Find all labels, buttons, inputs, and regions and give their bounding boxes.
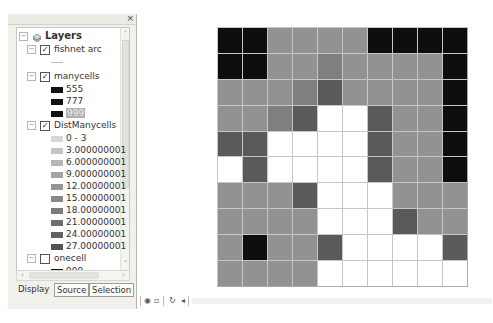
raster-cell [317, 27, 342, 53]
map-raster-grid[interactable] [217, 27, 468, 287]
legend-item[interactable]: 999 [51, 107, 85, 119]
legend-swatch-icon [51, 148, 63, 154]
raster-cell [367, 156, 392, 182]
layer-visibility-checkbox[interactable]: ✓ [40, 121, 50, 131]
raster-cell [292, 260, 317, 286]
legend-item[interactable]: 15.00000001 - 1 [51, 192, 130, 204]
raster-cell [442, 27, 467, 53]
legend-item[interactable]: 0 - 3 [51, 132, 86, 144]
collapse-icon[interactable]: − [27, 72, 36, 81]
layer-item[interactable]: −onecell [27, 252, 86, 264]
raster-cell [417, 208, 442, 234]
legend-label: 18.00000001 - 2 [66, 205, 130, 215]
table-of-contents-panel: × ˄ ˅ −Layers−✓fishnet arc−✓manycells555… [8, 14, 137, 309]
legend-item[interactable]: 21.00000001 - 2 [51, 216, 130, 228]
legend-item[interactable]: 3.000000001 - 6 [51, 144, 130, 156]
raster-cell [292, 234, 317, 260]
globe-icon[interactable]: ◉ [144, 296, 151, 306]
collapse-icon[interactable]: − [27, 45, 36, 54]
legend-swatch-icon [51, 99, 63, 105]
scroll-down-icon[interactable]: ˅ [121, 259, 130, 269]
toolbar-separator [163, 296, 164, 306]
raster-cell [317, 53, 342, 79]
raster-cell [442, 131, 467, 157]
raster-cell [267, 182, 292, 208]
legend-item[interactable]: 9.000000001 - 1 [51, 168, 130, 180]
layer-name: onecell [54, 253, 86, 263]
raster-cell [267, 53, 292, 79]
layer-tree-root[interactable]: −Layers [19, 30, 82, 42]
collapse-icon[interactable]: − [19, 32, 28, 41]
legend-item[interactable]: 555 [51, 83, 83, 95]
raster-cell [392, 79, 417, 105]
horizontal-scrollbar[interactable]: ‹ › [16, 270, 130, 281]
map-horizontal-scrollbar[interactable] [192, 298, 492, 304]
raster-cell [367, 105, 392, 131]
legend-label: 999 [66, 108, 85, 118]
legend-item[interactable]: 18.00000001 - 2 [51, 204, 130, 216]
raster-cell [342, 156, 367, 182]
legend-swatch-icon [51, 87, 63, 93]
layer-item[interactable]: −✓DistManycells [27, 119, 116, 131]
raster-cell [317, 79, 342, 105]
line-symbol-icon [51, 62, 63, 63]
legend-item[interactable]: 24.00000001 - 2 [51, 228, 130, 240]
panel-titlebar[interactable]: × [8, 14, 136, 25]
raster-cell [367, 53, 392, 79]
page-layout-icon[interactable]: ▫ [154, 296, 159, 306]
collapse-icon[interactable]: − [27, 254, 36, 263]
raster-cell [367, 208, 392, 234]
scroll-right-icon[interactable]: › [119, 271, 128, 280]
raster-cell [217, 156, 242, 182]
layer-visibility-checkbox[interactable]: ✓ [40, 72, 50, 82]
raster-cell [367, 27, 392, 53]
raster-cell [392, 156, 417, 182]
raster-cell [392, 53, 417, 79]
raster-cell [292, 53, 317, 79]
legend-swatch-icon [51, 160, 63, 166]
raster-cell [317, 208, 342, 234]
legend-label: 9.000000001 - 1 [66, 169, 130, 179]
close-icon[interactable]: × [126, 13, 134, 23]
raster-cell [417, 131, 442, 157]
legend-item[interactable]: 12.00000001 - 1 [51, 180, 130, 192]
layer-item[interactable]: −✓manycells [27, 70, 100, 82]
scroll-up-icon[interactable]: ˄ [121, 29, 130, 39]
scroll-left-icon[interactable]: ‹ [18, 271, 27, 280]
scroll-thumb-horizontal[interactable] [29, 272, 99, 279]
raster-cell [242, 260, 267, 286]
raster-cell [242, 53, 267, 79]
raster-cell [392, 105, 417, 131]
layer-name: manycells [54, 71, 100, 81]
raster-cell [442, 79, 467, 105]
raster-cell [217, 208, 242, 234]
layer-visibility-checkbox[interactable]: ✓ [40, 45, 50, 55]
tab-source[interactable]: Source [54, 283, 89, 297]
raster-cell [292, 208, 317, 234]
raster-cell [342, 53, 367, 79]
raster-cell [392, 27, 417, 53]
legend-swatch-icon [51, 220, 63, 226]
legend-item[interactable]: 27.00000001 - 3 [51, 240, 130, 252]
layer-visibility-checkbox[interactable] [40, 254, 50, 264]
pause-draw-icon[interactable]: ◂ [181, 296, 185, 306]
raster-cell [367, 260, 392, 286]
raster-cell [217, 234, 242, 260]
raster-cell [342, 105, 367, 131]
raster-cell [242, 234, 267, 260]
legend-item[interactable]: 6.000000001 - 9 [51, 156, 130, 168]
legend-item[interactable] [51, 56, 63, 68]
layer-item[interactable]: −✓fishnet arc [27, 43, 102, 55]
legend-label: 12.00000001 - 1 [66, 181, 130, 191]
collapse-icon[interactable]: − [27, 121, 36, 130]
raster-cell [292, 79, 317, 105]
tab-selection[interactable]: Selection [89, 283, 134, 297]
refresh-icon[interactable]: ↻ [169, 296, 176, 306]
raster-cell [442, 105, 467, 131]
raster-cell [417, 260, 442, 286]
raster-cell [442, 208, 467, 234]
raster-cell [217, 27, 242, 53]
legend-item[interactable]: 777 [51, 95, 83, 107]
raster-cell [317, 105, 342, 131]
tab-display[interactable]: Display [16, 283, 51, 295]
